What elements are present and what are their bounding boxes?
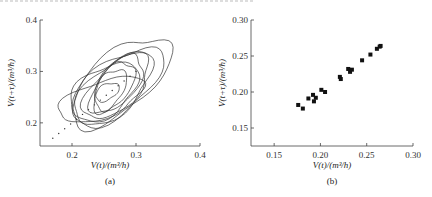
diagonal-dot — [82, 114, 83, 115]
diagonal-dot — [70, 123, 71, 124]
diagonal-dot — [76, 118, 77, 119]
data-point — [314, 96, 318, 100]
y-tick-label: 0.3 — [26, 66, 38, 76]
data-point — [319, 88, 323, 92]
panel-caption: (a) — [105, 176, 115, 186]
data-point — [301, 107, 305, 111]
y-tick-label: 0.25 — [232, 51, 248, 61]
x-axis-label: V(t)/(m³/h) — [91, 160, 130, 170]
axes — [40, 20, 200, 146]
data-point — [379, 44, 383, 48]
data-point — [339, 77, 343, 81]
trajectory-loop — [72, 40, 173, 132]
y-tick-label: 0.2 — [26, 118, 37, 128]
data-point — [360, 58, 364, 62]
trajectory-loop — [96, 84, 120, 103]
diagonal-dot — [52, 138, 53, 139]
y-tick-label: 0.20 — [232, 87, 248, 97]
diagonal-dot — [100, 99, 101, 100]
y-axis-label: V(t+τ)/(m³/h) — [217, 59, 227, 107]
panel-a: 0.20.30.40.20.30.4V(t)/(m³/h)V(t+τ)/(m³/… — [6, 15, 206, 186]
y-tick-label: 0.30 — [232, 15, 248, 25]
x-tick-label: 0.30 — [405, 150, 421, 160]
data-point — [323, 90, 327, 94]
y-axis-label: V(t+τ)/(m³/h) — [6, 59, 16, 107]
diagonal-dot — [112, 90, 113, 91]
data-point — [296, 103, 300, 107]
figure: 0.20.30.40.20.30.4V(t)/(m³/h)V(t+τ)/(m³/… — [0, 0, 432, 197]
x-axis-label: V(t)/(m³/h) — [313, 160, 352, 170]
diagonal-dot — [94, 104, 95, 105]
axes — [251, 20, 413, 146]
diagonal-dot — [58, 133, 59, 134]
x-tick-label: 0.25 — [359, 150, 375, 160]
diagonal-dot — [129, 76, 130, 77]
y-tick-label: 0.15 — [232, 123, 248, 133]
x-tick-label: 0.4 — [194, 150, 206, 160]
diagonal-dot — [117, 85, 118, 86]
data-point — [350, 68, 354, 72]
data-point — [368, 53, 372, 57]
diagonal-dot — [106, 95, 107, 96]
x-tick-label: 0.15 — [266, 150, 282, 160]
data-point — [312, 99, 316, 103]
y-tick-label: 0.4 — [26, 15, 38, 25]
diagonal-dot — [64, 128, 65, 129]
diagonal-dot — [135, 71, 136, 72]
panel-b: 0.150.200.250.300.150.200.250.30V(t)/(m³… — [217, 15, 421, 186]
diagonal-dot — [123, 80, 124, 81]
panel-caption: (b) — [327, 176, 338, 186]
x-tick-label: 0.3 — [130, 150, 142, 160]
data-point — [306, 96, 310, 100]
diagonal-dot — [88, 109, 89, 110]
x-tick-label: 0.20 — [313, 150, 329, 160]
x-tick-label: 0.2 — [66, 150, 77, 160]
